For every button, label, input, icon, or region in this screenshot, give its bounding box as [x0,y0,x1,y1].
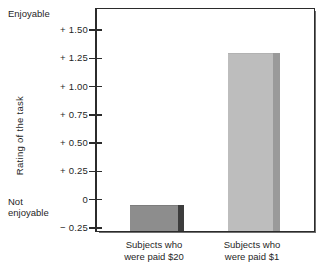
plot-area-frame [96,8,315,232]
bar-paid-20 [130,205,178,231]
y-tick-label: + 1.00 [28,82,88,92]
y-tick-label: + 0.25 [28,166,88,176]
y-tick-label: + 1.50 [28,25,88,35]
bar-top-edge [228,53,273,54]
bar-side-face [273,53,280,231]
axis-anchor-top-label: Enjoyable [8,8,50,19]
y-tick-label: + 0.75 [28,110,88,120]
y-tick-mark [89,86,102,88]
bar-chart-figure: Enjoyable Not enjoyable Rating of the ta… [0,0,326,279]
y-tick-mark [89,58,102,60]
y-tick-mark [89,199,102,201]
bar-top-edge [130,205,178,206]
bar-side-face [178,205,184,231]
bar-front-face [130,205,178,231]
y-tick-mark [89,142,102,144]
y-tick-label: 0 [28,195,88,205]
y-tick-mark [89,227,102,229]
y-tick-mark [89,171,102,173]
bar-paid-1 [228,53,273,231]
category-label-paid-20: Subjects who were paid $20 [106,239,202,262]
y-tick-label: − 0.25 [28,223,88,233]
category-label-paid-1: Subjects who were paid $1 [204,239,300,262]
bar-front-face [228,53,273,231]
y-tick-mark [89,29,102,31]
y-axis-title: Rating of the task [14,86,25,186]
y-tick-label: + 1.25 [28,53,88,63]
y-tick-mark [89,114,102,116]
y-tick-label: + 0.50 [28,138,88,148]
